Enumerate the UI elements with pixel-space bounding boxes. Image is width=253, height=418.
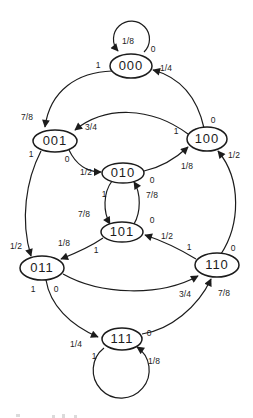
edge-101-to-010 (134, 182, 139, 224)
edge-011-110-prob-label: 3/4 (179, 289, 191, 299)
edge-110-101-prob-label: 1/2 (161, 231, 173, 241)
edge-111-110-bit-label: 0 (147, 328, 152, 338)
edge-111-111-bit-label: 1 (92, 351, 97, 361)
edge-011-110-bit-label: 0 (54, 284, 59, 294)
state-011: 011 (20, 256, 64, 280)
state-110-label: 110 (205, 257, 229, 272)
state-000: 000 (110, 54, 152, 78)
state-000-label: 000 (119, 58, 144, 73)
state-001: 001 (33, 130, 77, 152)
edge-101-010-bit-label: 0 (150, 215, 155, 225)
edge-111-111-prob-label: 1/8 (148, 356, 160, 366)
state-101: 101 (101, 222, 143, 242)
edge-010-100-prob-label: 1/8 (181, 161, 193, 171)
edge-010-101-bit-label: 1 (102, 189, 107, 199)
state-011-label: 011 (30, 260, 54, 275)
edge-100-000-prob-label: 1/4 (160, 63, 172, 73)
edge-000-to-001 (45, 71, 112, 127)
edge-001-010-prob-label: 1/2 (80, 167, 92, 177)
edge-010-to-101 (105, 181, 112, 224)
state-diagram-figure: 000 001 100 010 101 011 110 111 1/8 0 1 … (0, 0, 253, 418)
cutoff-caption-marks (16, 414, 77, 418)
edge-000-001-bit-label: 1 (96, 60, 101, 70)
edge-000-000-prob-label: 1/8 (122, 36, 134, 46)
state-111-label: 111 (111, 331, 134, 346)
edge-001-to-011 (25, 151, 41, 256)
edge-110-101-bit-label: 1 (187, 242, 192, 252)
edge-010-100-bit-label: 0 (150, 175, 155, 185)
state-010-label: 010 (111, 165, 136, 180)
edge-110-to-100 (218, 151, 236, 254)
edge-111-110-prob-label: 7/8 (218, 288, 230, 298)
edge-101-011-bit-label: 1 (94, 245, 99, 255)
state-110: 110 (195, 253, 239, 277)
edge-000-001-prob-label: 7/8 (21, 112, 33, 122)
state-010: 010 (102, 163, 144, 183)
edge-011-111-bit-label: 1 (31, 284, 36, 294)
edge-001-011-prob-label: 1/2 (10, 241, 22, 251)
edge-010-101-prob-label: 7/8 (78, 209, 90, 219)
edge-110-100-prob-label: 1/2 (228, 150, 240, 160)
edge-001-011-bit-label: 1 (29, 149, 34, 159)
edge-101-011-prob-label: 1/8 (58, 238, 70, 248)
edge-001-010-bit-label: 0 (65, 154, 70, 164)
state-001-label: 001 (43, 133, 68, 148)
edge-100-001-prob-label: 3/4 (85, 122, 97, 132)
edge-000-000-bit-label: 0 (151, 44, 156, 54)
edge-111-to-111 (93, 347, 149, 398)
edge-101-010-prob-label: 7/8 (146, 190, 158, 200)
edge-110-100-bit-label: 0 (231, 243, 236, 253)
state-111: 111 (102, 328, 142, 350)
edge-100-000-bit-label: 0 (211, 115, 216, 125)
state-100-label: 100 (195, 131, 220, 146)
markov-chain-diagram: 000 001 100 010 101 011 110 111 1/8 0 1 … (0, 0, 253, 418)
state-101-label: 101 (110, 224, 135, 239)
state-100: 100 (187, 127, 227, 151)
edge-111-to-110 (142, 279, 211, 334)
edge-011-to-110 (63, 274, 198, 291)
edge-011-111-prob-label: 1/4 (70, 339, 82, 349)
edge-100-001-bit-label: 1 (174, 126, 179, 136)
